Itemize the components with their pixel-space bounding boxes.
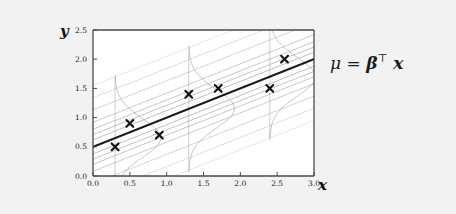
y-tick-label: 2.0	[75, 55, 87, 64]
y-tick-label: 0.0	[75, 172, 87, 181]
formula-x-symbol: x	[393, 53, 403, 73]
y-tick-label: 1.5	[75, 84, 87, 93]
x-tick-label: 0.0	[87, 179, 99, 188]
x-tick-label: 1.5	[198, 179, 210, 188]
formula-equals-symbol: =	[346, 53, 360, 73]
x-tick-label: 2.5	[271, 179, 283, 188]
regression-figure: 0.00.51.01.52.02.50.00.51.01.52.02.53.0 …	[0, 0, 456, 214]
regression-formula-annotation: μ = β⊤ x	[330, 52, 403, 73]
y-tick-label: 0.5	[75, 142, 87, 151]
y-tick-label: 1.0	[75, 113, 87, 122]
formula-transpose-symbol: ⊤	[377, 52, 387, 65]
formula-mu-symbol: μ	[330, 53, 341, 73]
x-tick-label: 0.5	[124, 179, 136, 188]
formula-beta-symbol: β	[366, 53, 377, 73]
y-axis-label: y	[60, 22, 69, 40]
x-tick-label: 2.0	[234, 179, 246, 188]
x-tick-label: 1.0	[161, 179, 173, 188]
x-axis-label: x	[318, 176, 327, 194]
y-tick-label: 2.5	[75, 26, 87, 35]
